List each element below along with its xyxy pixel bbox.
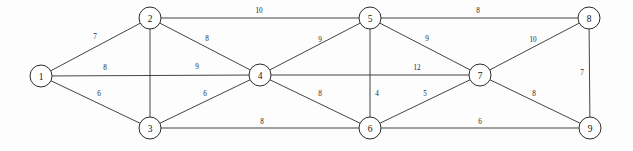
edge-weight-6-7: 5 [423,90,427,98]
graph-edge-1-4 [52,75,249,76]
graph-edge-7-8 [490,23,580,70]
edge-weight-5-8: 8 [476,7,480,15]
graph-edge-5-7 [380,23,470,70]
node-label-1: 1 [39,72,44,82]
edge-weight-2-4: 8 [205,35,209,43]
edge-weight-8-9: 7 [580,69,584,77]
edge-weight-4-6: 8 [318,90,322,98]
edge-weight-3-4: 6 [203,90,207,98]
graph-edge-1-3 [51,81,140,124]
graph-diagram: 7896108689812498561087 123456789 [0,0,633,151]
graph-edge-8-9 [589,29,590,117]
graph-edge-1-2 [51,23,141,71]
graph-node-2[interactable]: 2 [139,7,161,29]
edge-weight-1-4: 8 [103,64,107,72]
graph-node-8[interactable]: 8 [578,7,600,29]
edge-weight-5-6: 4 [375,90,379,98]
edge-weight-1-4: 9 [195,63,199,71]
edge-weight-3-6: 8 [260,118,264,126]
node-label-2: 2 [148,14,153,24]
node-label-8: 8 [587,14,592,24]
graph-node-3[interactable]: 3 [139,117,161,139]
graph-edge-4-5 [270,23,360,70]
edge-weight-4-7: 12 [413,64,421,72]
graph-edge-6-7 [380,80,470,123]
graph-edge-7-9 [490,80,580,123]
edge-weight-5-7: 9 [425,35,429,43]
graph-node-7[interactable]: 7 [469,64,491,86]
edges-layer [51,18,590,128]
edge-weight-7-9: 8 [532,90,536,98]
nodes-layer: 123456789 [30,7,601,139]
graph-node-6[interactable]: 6 [359,117,381,139]
graph-edge-2-4 [160,23,250,70]
edge-weight-4-5: 9 [318,36,322,44]
edge-weights-layer: 7896108689812498561087 [93,7,584,126]
node-label-3: 3 [148,124,153,134]
node-label-7: 7 [478,71,483,81]
graph-node-9[interactable]: 9 [579,117,601,139]
node-label-6: 6 [368,124,373,134]
node-label-9: 9 [588,124,593,134]
node-label-4: 4 [258,71,263,81]
graph-node-4[interactable]: 4 [249,64,271,86]
edge-weight-7-8: 10 [529,36,537,44]
graph-node-5[interactable]: 5 [359,7,381,29]
graph-edge-3-4 [160,80,250,123]
graph-canvas: 7896108689812498561087 123456789 [0,0,633,151]
node-label-5: 5 [368,14,373,24]
graph-node-1[interactable]: 1 [30,65,52,87]
edge-weight-1-2: 7 [93,33,97,41]
edge-weight-1-3: 6 [97,90,101,98]
graph-edge-4-6 [270,80,360,123]
edge-weight-6-9: 6 [478,118,482,126]
edge-weight-2-5: 10 [255,7,263,15]
